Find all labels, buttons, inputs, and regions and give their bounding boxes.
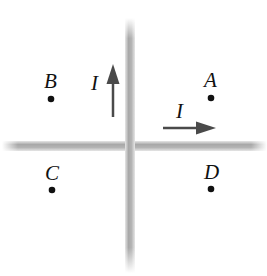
point-a-label: A [202,68,217,92]
horizontal-current-arrow-icon [163,122,216,135]
vertical-current-label: I [90,71,99,95]
horizontal-current-label: I [175,99,184,123]
point-a-dot [208,95,215,102]
vertical-wire [125,18,135,273]
point-b-label: B [44,69,57,93]
wire-diagram: I I B A C D [0,0,267,276]
vertical-current-arrow-icon [107,64,120,117]
point-c-label: C [45,161,60,185]
point-c-dot [49,187,56,194]
point-d-label: D [203,160,219,184]
point-b-dot [48,96,55,103]
diagram-svg: I I B A C D [0,0,267,276]
point-d-dot [208,186,215,193]
